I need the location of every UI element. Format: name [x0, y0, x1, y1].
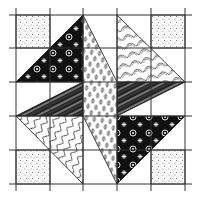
oval-center-band	[83, 15, 117, 184]
corner-square-top-left	[16, 15, 50, 48]
quilt-block-svg	[0, 0, 203, 199]
corner-square-top-right	[151, 15, 185, 48]
corner-square-bottom-right	[151, 150, 185, 184]
quilt-block-illustration	[0, 0, 203, 199]
corner-square-bottom-left	[16, 150, 50, 184]
